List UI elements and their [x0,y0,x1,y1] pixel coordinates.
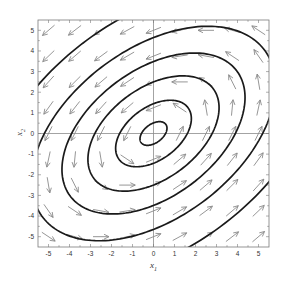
y-tick-label: 3 [30,68,34,75]
vector-arrow [203,100,208,116]
vector-arrow [254,50,263,63]
vector-arrow [252,231,264,241]
vector-arrow [47,177,52,193]
vector-arrow [43,51,55,62]
x-tick-label: 2 [194,250,198,257]
vector-arrow [96,102,107,114]
x-tick-label: -3 [88,250,94,257]
vector-arrow [173,233,187,241]
vector-arrow [227,179,238,190]
vector-arrow [257,100,262,116]
x-axis-label: x1 [149,260,157,272]
vector-arrow [120,26,134,34]
y-tick-label: -1 [28,150,34,157]
x-tick-label: 0 [152,250,156,257]
vector-arrow [230,100,235,116]
x-tick-label: -1 [130,250,136,257]
y-tick-label: 5 [30,27,34,34]
vector-arrow [68,206,81,215]
vector-arrow [42,232,55,241]
vector-arrow [256,74,261,90]
vector-arrow [227,153,237,166]
vector-arrow [42,25,54,35]
vector-arrow [71,178,78,192]
vector-arrow [121,102,133,112]
vector-arrow [46,151,51,167]
vector-arrow [252,26,265,35]
vector-arrow [119,183,135,188]
y-tick-label: 2 [30,89,34,96]
vector-arrow [226,232,239,242]
y-tick-label: -3 [28,192,34,199]
y-tick-label: -4 [28,212,34,219]
zero-axis-lines [38,20,269,247]
x-tick-label: -4 [67,250,73,257]
vector-arrow [198,28,214,33]
vector-arrow [226,52,239,61]
vector-arrow [72,151,77,167]
vector-arrow [44,204,53,217]
vector-arrow [68,25,81,35]
vector-arrow [44,101,53,114]
vector-arrow [229,75,236,89]
vector-arrow [69,76,80,87]
y-tick-label: 4 [30,47,34,54]
phase-portrait-chart: -5-4-3-2-1012345 -5-4-3-2-1012345 x1 x2 [0,0,285,283]
y-tick-label: -5 [28,233,34,240]
y-tick-label: -2 [28,171,34,178]
y-axis-label: x2 [14,129,26,137]
vector-arrow [200,180,212,190]
vector-arrow [174,154,186,164]
x-tick-label: 1 [173,250,177,257]
vector-arrow [172,80,188,85]
vector-arrow [95,77,107,87]
x-tick-label: 4 [236,250,240,257]
vector-arrow [254,153,263,166]
y-tick-labels: -5-4-3-2-1012345 [28,27,34,240]
vector-arrow [93,234,109,239]
x-tick-label: -5 [46,250,52,257]
x-tick-labels: -5-4-3-2-1012345 [46,250,261,257]
y-tick-label: 1 [30,109,34,116]
x-tick-label: 3 [215,250,219,257]
y-tick-label: 0 [30,130,34,137]
x-tick-label: 5 [257,250,261,257]
vector-arrow [95,51,108,60]
vector-arrow [99,151,104,167]
x-tick-label: -2 [109,250,115,257]
vector-arrow [201,153,212,165]
phase-portrait-figure: -5-4-3-2-1012345 -5-4-3-2-1012345 x1 x2 [0,0,285,283]
vector-arrow [253,205,265,216]
vector-arrow [200,206,213,215]
level-set-contours [0,0,285,279]
vector-arrow [70,101,80,114]
